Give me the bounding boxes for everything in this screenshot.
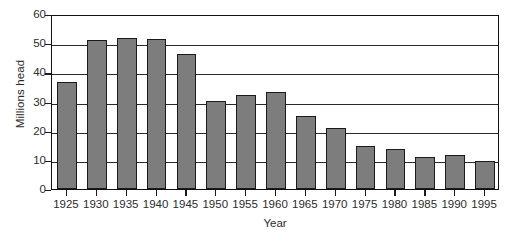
bar xyxy=(206,101,226,189)
x-axis-tick-mark-group xyxy=(51,190,499,197)
x-axis-tick-mark xyxy=(96,190,97,196)
bar-series xyxy=(52,16,498,189)
y-axis-tick-label: 50 xyxy=(18,38,46,50)
x-axis-tick-mark xyxy=(335,190,336,196)
y-axis-tick-label: 30 xyxy=(18,97,46,109)
bar xyxy=(57,82,77,189)
y-axis-tick-label: 40 xyxy=(18,67,46,79)
x-axis-title: Year xyxy=(51,217,499,229)
y-axis-tick-label: 10 xyxy=(18,155,46,167)
plot-area xyxy=(51,15,499,190)
y-axis-tick-label: 0 xyxy=(18,184,46,196)
x-axis-tick-label: 1995 xyxy=(464,198,504,211)
x-axis-tick-mark xyxy=(275,190,276,196)
bar-chart-figure: Millions head 0102030405060 192519301935… xyxy=(0,0,509,240)
y-axis-tick-label: 20 xyxy=(18,126,46,138)
x-axis-tick-mark xyxy=(305,190,306,196)
x-axis-tick-mark xyxy=(126,190,127,196)
bar xyxy=(445,155,465,189)
bar xyxy=(87,40,107,189)
bar xyxy=(266,92,286,189)
bar xyxy=(177,54,197,189)
bar xyxy=(356,146,376,189)
x-axis-tick-mark xyxy=(215,190,216,196)
bar xyxy=(236,95,256,189)
bar xyxy=(386,149,406,189)
bar xyxy=(296,116,316,189)
x-axis-tick-mark xyxy=(185,190,186,196)
x-axis-tick-mark xyxy=(484,190,485,196)
bar xyxy=(415,157,435,189)
x-axis-tick-mark xyxy=(245,190,246,196)
x-axis-tick-mark xyxy=(424,190,425,196)
x-axis-tick-mark xyxy=(394,190,395,196)
bar xyxy=(326,128,346,189)
bar xyxy=(117,38,137,189)
bar xyxy=(475,161,495,189)
bar xyxy=(147,39,167,189)
x-axis-tick-mark xyxy=(156,190,157,196)
x-axis-tick-label-group: 1925193019351940194519501955196019651970… xyxy=(51,198,499,214)
y-axis-tick-label-group: 0102030405060 xyxy=(18,0,46,240)
x-axis-tick-mark xyxy=(365,190,366,196)
y-axis-tick-label: 60 xyxy=(18,9,46,21)
x-axis-tick-mark xyxy=(66,190,67,196)
x-axis-tick-mark xyxy=(454,190,455,196)
